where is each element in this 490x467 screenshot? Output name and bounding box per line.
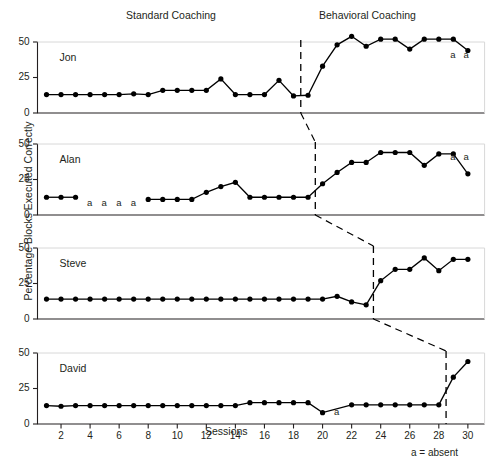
data-point: [44, 92, 49, 97]
data-point: [131, 403, 136, 408]
data-point: [451, 37, 456, 42]
x-tick-label: 12: [198, 430, 214, 441]
data-point: [276, 297, 281, 302]
x-tick-label: 20: [315, 430, 331, 441]
y-tick-label: 50: [8, 347, 30, 358]
data-point: [58, 297, 63, 302]
data-point: [247, 400, 252, 405]
data-point: [465, 257, 470, 262]
data-point: [436, 268, 441, 273]
data-point: [233, 92, 238, 97]
data-point: [364, 402, 369, 407]
data-point: [73, 195, 78, 200]
data-point: [160, 403, 165, 408]
x-tick-label: 14: [227, 430, 243, 441]
data-point: [146, 297, 151, 302]
data-point: [349, 402, 354, 407]
series-line: [47, 79, 294, 96]
data-point: [87, 297, 92, 302]
data-point: [233, 403, 238, 408]
data-point: [102, 403, 107, 408]
data-point: [146, 403, 151, 408]
y-tick-label: 50: [8, 138, 30, 149]
data-point: [131, 297, 136, 302]
data-point: [102, 92, 107, 97]
data-point: [305, 297, 310, 302]
data-point: [189, 88, 194, 93]
data-point: [320, 297, 325, 302]
data-point: [262, 92, 267, 97]
x-tick-label: 2: [53, 430, 69, 441]
panel-label-steve: Steve: [60, 257, 87, 269]
data-point: [175, 197, 180, 202]
absent-footnote: a = absent: [411, 447, 458, 458]
data-point: [204, 403, 209, 408]
x-tick-label: 28: [431, 430, 447, 441]
x-tick-label: 6: [111, 430, 127, 441]
data-point: [364, 160, 369, 165]
phase-title-standard: Standard Coaching: [126, 9, 216, 21]
data-point: [175, 403, 180, 408]
data-point: [58, 92, 63, 97]
absent-marker: a: [116, 197, 121, 208]
absent-marker: a: [463, 151, 468, 162]
data-point: [349, 299, 354, 304]
data-point: [349, 160, 354, 165]
data-point: [117, 92, 122, 97]
data-point: [218, 403, 223, 408]
data-point: [262, 297, 267, 302]
data-point: [58, 195, 63, 200]
data-point: [407, 267, 412, 272]
data-point: [117, 297, 122, 302]
data-point: [393, 402, 398, 407]
data-point: [393, 267, 398, 272]
x-tick-label: 18: [286, 430, 302, 441]
data-point: [378, 37, 383, 42]
panel-jon: [33, 34, 485, 142]
data-point: [44, 297, 49, 302]
data-point: [378, 402, 383, 407]
data-point: [422, 402, 427, 407]
data-point: [87, 403, 92, 408]
plot-canvas: [0, 0, 490, 467]
data-point: [233, 297, 238, 302]
data-point: [233, 180, 238, 185]
data-point: [276, 195, 281, 200]
data-point: [335, 42, 340, 47]
absent-marker: a: [334, 406, 339, 417]
y-tick-label: 50: [8, 242, 30, 253]
data-point: [117, 403, 122, 408]
data-point: [335, 294, 340, 299]
data-point: [291, 297, 296, 302]
series-line: [308, 36, 468, 95]
data-point: [465, 171, 470, 176]
data-point: [436, 37, 441, 42]
panel-label-david: David: [60, 362, 87, 374]
x-tick-label: 8: [140, 430, 156, 441]
data-point: [218, 297, 223, 302]
y-tick-label: 0: [8, 107, 30, 118]
data-point: [146, 197, 151, 202]
data-point: [393, 150, 398, 155]
data-point: [175, 88, 180, 93]
y-tick-label: 50: [8, 36, 30, 47]
data-point: [58, 404, 63, 409]
absent-marker: a: [131, 197, 136, 208]
data-point: [393, 37, 398, 42]
panel-steve: [33, 246, 485, 351]
data-point: [175, 297, 180, 302]
data-point: [422, 163, 427, 168]
data-point: [320, 64, 325, 69]
data-point: [73, 297, 78, 302]
y-tick-label: 25: [8, 382, 30, 393]
phase-title-behavioral: Behavioral Coaching: [319, 9, 416, 21]
data-point: [131, 91, 136, 96]
absent-marker: a: [450, 151, 455, 162]
x-tick-label: 4: [82, 430, 98, 441]
data-point: [247, 195, 252, 200]
data-point: [465, 359, 470, 364]
data-point: [102, 297, 107, 302]
data-point: [218, 184, 223, 189]
y-tick-label: 0: [8, 209, 30, 220]
y-tick-label: 25: [8, 277, 30, 288]
